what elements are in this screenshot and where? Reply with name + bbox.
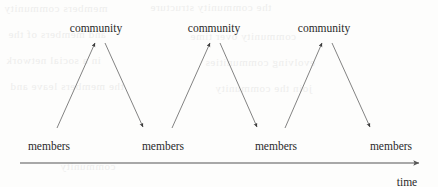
members-to-community-2 (172, 43, 210, 128)
members-node-label: members (28, 141, 70, 153)
members-to-community-3 (285, 43, 322, 128)
community-node-label: community (298, 23, 350, 35)
members-to-community-1 (57, 43, 95, 128)
members-node-label: members (142, 141, 184, 153)
community-node-label: community (70, 23, 122, 35)
members-node-label: members (370, 141, 412, 153)
figure-canvas: members community the community structur… (0, 0, 438, 187)
community-to-members-3 (332, 43, 370, 127)
members-node-label: members (255, 141, 297, 153)
transition-arrows (57, 43, 370, 128)
community-to-members-2 (220, 43, 257, 127)
community-node-label: community (188, 23, 240, 35)
community-to-members-1 (105, 43, 143, 127)
time-axis-label: time (397, 177, 417, 187)
